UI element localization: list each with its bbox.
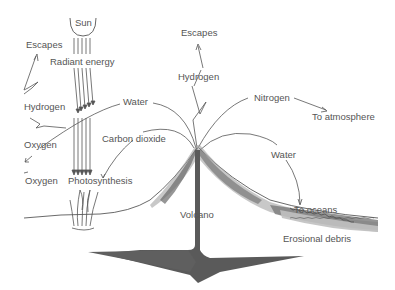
oxygen-arrow-icon	[24, 156, 32, 173]
label-volcano: Volcano	[180, 210, 214, 220]
label-to-oceans: To oceans	[294, 205, 337, 215]
label-oxygen-upper: Oxygen	[24, 140, 57, 150]
nitrogen-arc-icon	[198, 98, 327, 148]
label-hydrogen-left: Hydrogen	[24, 102, 65, 112]
label-water-left: Water	[123, 97, 148, 107]
label-hydrogen-top: Hydrogen	[178, 72, 219, 82]
label-radiant-energy: Radiant energy	[50, 57, 114, 67]
label-erosional-debris: Erosional debris	[283, 234, 351, 244]
label-escapes-top: Escapes	[181, 28, 217, 38]
label-sun: Sun	[75, 18, 92, 28]
label-carbon-dioxide: Carbon dioxide	[102, 134, 166, 144]
label-oxygen-lower: Oxygen	[25, 176, 58, 186]
label-photosynthesis: Photosynthesis	[68, 176, 132, 186]
plants-icon	[70, 190, 98, 230]
hydrogen-zigzag-icon	[30, 118, 66, 128]
volcanic-outgassing-diagram: Sun Radiant energy Escapes Hydrogen Oxyg…	[0, 0, 395, 290]
label-escapes-left: Escapes	[26, 40, 62, 50]
label-nitrogen: Nitrogen	[254, 93, 290, 103]
hydrogen-zigzag-top-icon	[192, 44, 206, 148]
hydrogen-escape-arrow-icon	[24, 54, 38, 94]
label-water-right: Water	[271, 150, 296, 160]
label-to-atmosphere: To atmosphere	[312, 112, 375, 122]
